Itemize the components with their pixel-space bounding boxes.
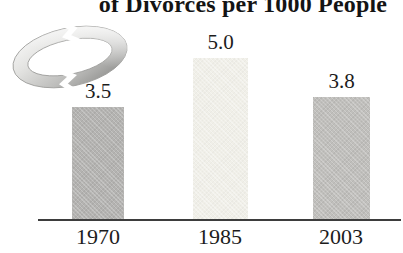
bar-group-2003: 3.8 — [313, 0, 370, 220]
bar-2003 — [313, 97, 370, 220]
bar-1985 — [193, 58, 248, 220]
bar-value-label: 3.8 — [328, 69, 354, 94]
bar-group-1985: 5.0 — [193, 0, 248, 220]
x-tick-label-2003: 2003 — [305, 224, 377, 250]
bar-value-label: 3.5 — [85, 79, 111, 104]
bar-1970 — [72, 107, 124, 220]
bar-value-label: 5.0 — [207, 30, 233, 55]
x-tick-label-1985: 1985 — [184, 224, 256, 250]
chart-canvas: of Divorces per 1000 People 3.5 5.0 — [0, 0, 403, 253]
bar-group-1970: 3.5 — [72, 0, 124, 220]
x-axis-line — [38, 219, 401, 221]
x-tick-label-1970: 1970 — [62, 224, 134, 250]
